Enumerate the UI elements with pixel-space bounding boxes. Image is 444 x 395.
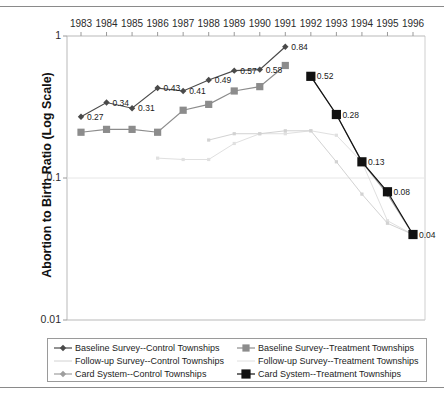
point-label: 0.31 [138, 104, 155, 113]
legend-label: Follow-up Survey--Control Townships [75, 355, 224, 367]
point-label: 0.13 [368, 158, 385, 167]
point-label: 0.08 [393, 188, 410, 197]
legend-marker-icon [53, 355, 73, 367]
legend-marker-icon [236, 368, 256, 380]
chart-figure: Abortion to Birth Ratio (Log Scale) 1983… [0, 8, 444, 386]
point-label: 0.27 [87, 113, 104, 122]
chart-page: Abortion to Birth Ratio (Log Scale) 1983… [0, 0, 444, 395]
legend-label: Card System--Treatment Townships [258, 368, 401, 380]
point-label: 0.04 [419, 231, 436, 240]
legend-marker-icon [236, 355, 256, 367]
point-label: 0.52 [317, 72, 334, 81]
data-point-labels: 0.270.340.310.430.410.490.570.580.840.52… [0, 8, 444, 386]
legend-square-filled [241, 369, 250, 378]
legend-diamond [60, 371, 66, 377]
legend-label: Baseline Survey--Control Townships [75, 342, 219, 354]
legend-square [242, 344, 249, 351]
legend-label: Follow-up Survey--Treatment Townships [258, 355, 419, 367]
point-label: 0.58 [266, 66, 283, 75]
legend-label: Baseline Survey--Treatment Townships [258, 342, 414, 354]
top-divider [0, 6, 444, 7]
legend-marker-icon [53, 368, 73, 380]
point-label: 0.41 [189, 87, 206, 96]
legend-label: Card System--Control Townships [75, 368, 206, 380]
point-label: 0.43 [164, 84, 181, 93]
point-label: 0.84 [291, 43, 308, 52]
bottom-divider [0, 387, 444, 388]
point-label: 0.34 [113, 99, 130, 108]
point-label: 0.28 [342, 111, 359, 120]
point-label: 0.57 [240, 67, 257, 76]
legend-diamond [60, 345, 66, 351]
legend-marker-icon [236, 342, 256, 354]
chart-legend: Baseline Survey--Control TownshipsBaseli… [47, 338, 427, 382]
point-label: 0.49 [215, 76, 232, 85]
legend-marker-icon [53, 342, 73, 354]
